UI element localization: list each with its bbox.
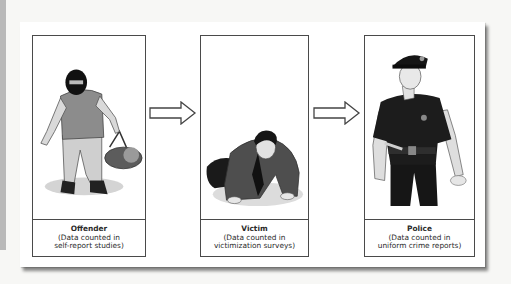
right-arrow-icon	[148, 101, 198, 125]
right-arrow-icon	[312, 101, 362, 125]
panel-description-line: self-report studies)	[33, 242, 145, 251]
police-illustration	[365, 36, 474, 220]
panel-offender: Offender (Data counted in self-report st…	[32, 35, 146, 257]
panel-victim: Victim (Data counted in victimization su…	[200, 35, 309, 257]
panel-description-line: victimization surveys)	[201, 242, 308, 251]
diagram-card: Offender (Data counted in self-report st…	[20, 22, 485, 267]
left-margin-strip	[0, 0, 6, 250]
victim-caption: Victim (Data counted in victimization su…	[201, 222, 308, 256]
panel-description-line: uniform crime reports)	[365, 242, 474, 251]
victim-illustration	[201, 36, 308, 220]
police-caption: Police (Data counted in uniform crime re…	[365, 222, 474, 256]
police-figure-icon	[365, 36, 474, 219]
victim-figure-icon	[201, 36, 308, 219]
offender-illustration	[33, 36, 145, 220]
panel-police: Police (Data counted in uniform crime re…	[364, 35, 475, 257]
offender-figure-icon	[33, 36, 145, 219]
offender-caption: Offender (Data counted in self-report st…	[33, 222, 145, 256]
